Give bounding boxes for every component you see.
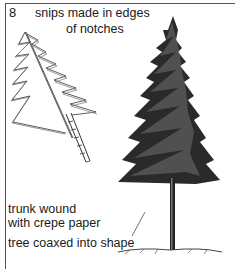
paper-tree-icon xyxy=(11,32,97,162)
coaxed-label: tree coaxed into shape xyxy=(8,236,134,250)
coaxed-pointer-line xyxy=(132,212,145,236)
snips-label-line2: of notches xyxy=(66,22,124,36)
figure-number: 8 xyxy=(9,6,16,20)
trunk-label-line1: trunk wound xyxy=(8,202,76,216)
trunk-label-line2: with crepe paper xyxy=(8,216,100,230)
snips-label-line1: snips made in edges xyxy=(35,6,150,20)
figure-8-illustration: 8 snips made in edges of notches trunk w… xyxy=(0,0,235,269)
pine-tree-icon xyxy=(118,16,222,254)
